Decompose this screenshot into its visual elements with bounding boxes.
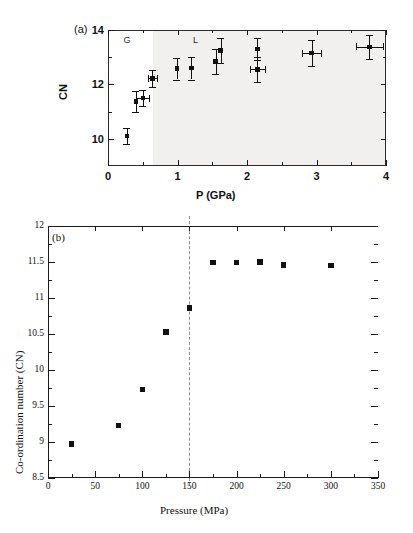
panel-b-x-ticklabel: 150: [174, 482, 204, 492]
panel-b-x-ticklabel: 350: [363, 482, 393, 492]
panel-a-x-minor-tick: [351, 162, 352, 166]
panel-a-yerror-cap: [132, 91, 139, 92]
panel-b-y-tick: [48, 334, 55, 335]
panel-b-x-tick: [284, 471, 285, 478]
panel-a-x-tick: [386, 160, 387, 166]
panel-a-yerror-cap: [173, 58, 180, 59]
figure-root: (a) CN P (GPa) 01234101214GL (b) Co-ordi…: [0, 0, 413, 533]
panel-b-y-tick-right: [371, 478, 378, 479]
panel-b-datapoint: [187, 305, 193, 311]
panel-a-y-ticklabel: 10: [78, 134, 104, 145]
panel-a-yerror-cap: [139, 90, 146, 91]
panel-a-x-tick-top: [317, 30, 318, 35]
panel-a-region-label-g: G: [123, 36, 130, 45]
panel-b-x-tick: [142, 471, 143, 478]
panel-a-x-ticklabel: 2: [233, 171, 261, 182]
panel-b-y-ticklabel: 11.5: [16, 257, 44, 267]
panel-a-right-spine: [385, 30, 386, 166]
panel-a-xerror-cap: [149, 95, 150, 102]
panel-b-x-ticklabel: 300: [316, 482, 346, 492]
panel-b-y-tick-right: [371, 334, 378, 335]
panel-a-xerror-cap: [148, 75, 149, 82]
panel-a-xerror-cap: [356, 43, 357, 50]
panel-a-x-minor-tick: [143, 162, 144, 166]
panel-a-yerror-cap: [149, 87, 156, 88]
panel-b-top-spine: [48, 226, 378, 227]
panel-a-y-tick: [108, 139, 114, 140]
panel-b-x-tick-top: [331, 226, 332, 231]
panel-a-x-tick: [108, 160, 109, 166]
panel-a-yerror-cap: [188, 80, 195, 81]
panel-b-y-tick-right: [371, 262, 378, 263]
panel-b-y-tick: [48, 406, 55, 407]
panel-a-y-tick: [108, 30, 114, 31]
panel-a-x-minor-tick: [282, 162, 283, 166]
panel-a-yerror-cap: [132, 112, 139, 113]
panel-a-x-axis-title: P (GPa): [196, 190, 236, 201]
panel-a-datapoint: [150, 76, 155, 81]
panel-a-y-tick: [108, 84, 114, 85]
panel-a-x-tick-top: [247, 30, 248, 35]
panel-b-x-ticklabel: 0: [33, 482, 63, 492]
panel-a-xerror-cap: [383, 43, 384, 50]
panel-a-x-ticklabel: 3: [303, 171, 331, 182]
panel-a-region-label-l: L: [193, 36, 198, 45]
panel-a-x-minor-tick: [212, 162, 213, 166]
panel-a: (a) CN P (GPa) 01234101214GL: [0, 0, 413, 212]
panel-a-y-ticklabel: 14: [78, 25, 104, 36]
panel-b-datapoint: [328, 263, 334, 269]
panel-a-x-tick: [178, 160, 179, 166]
panel-b-y-tick: [48, 370, 55, 371]
panel-a-datapoint: [141, 96, 146, 101]
panel-b-x-axis-title: Pressure (MPa): [160, 505, 228, 516]
panel-b-datapoint: [163, 329, 169, 335]
panel-b-y-tick-right: [371, 406, 378, 407]
panel-b-y-minor-tick: [48, 352, 52, 353]
panel-b-x-minor-tick: [354, 474, 355, 478]
panel-b-datapoint: [234, 260, 240, 266]
panel-a-y-minor-tick-right: [383, 112, 386, 113]
panel-a-yerror-cap: [308, 66, 315, 67]
panel-a-y-minor-tick: [108, 57, 112, 58]
panel-a-x-ticklabel: 0: [94, 171, 122, 182]
panel-a-xerror-cap: [265, 66, 266, 73]
panel-b-x-tick: [331, 471, 332, 478]
panel-b-x-tick-top: [142, 226, 143, 231]
panel-a-yerror-cap: [366, 35, 373, 36]
panel-b-datapoint: [210, 260, 216, 266]
panel-a-x-ticklabel: 1: [164, 171, 192, 182]
panel-a-datapoint: [309, 51, 314, 56]
panel-b-x-minor-tick: [72, 474, 73, 478]
panel-a-yerror-cap: [139, 106, 146, 107]
panel-b-y-tick-right: [371, 370, 378, 371]
panel-a-yerror-cap: [217, 63, 224, 64]
panel-b-y-minor-tick: [48, 424, 52, 425]
panel-b-x-ticklabel: 250: [269, 482, 299, 492]
panel-b-transition-line: [189, 216, 190, 486]
panel-a-x-tick: [247, 160, 248, 166]
panel-a-yerror-cap: [254, 38, 261, 39]
panel-b-y-tick: [48, 262, 55, 263]
panel-a-y-tick-right: [381, 84, 386, 85]
panel-b-y-tick: [48, 478, 55, 479]
panel-a-yerror-cap: [217, 38, 224, 39]
panel-b-y-tick-right: [371, 226, 378, 227]
panel-a-xerror-cap: [321, 50, 322, 57]
panel-b-x-ticklabel: 100: [127, 482, 157, 492]
panel-b-y-tick: [48, 226, 55, 227]
panel-a-yerror-cap: [173, 80, 180, 81]
panel-a-left-spine: [108, 30, 109, 166]
panel-a-y-minor-tick: [108, 112, 112, 113]
panel-a-x-minor-tick-top: [143, 30, 144, 33]
panel-a-x-tick: [317, 160, 318, 166]
panel-b-datapoint: [116, 423, 122, 429]
panel-b-x-tick: [48, 471, 49, 478]
panel-b-y-minor-tick-right: [374, 388, 378, 389]
panel-b-x-tick-top: [237, 226, 238, 231]
panel-a-x-ticklabel: 4: [372, 171, 400, 182]
panel-b-x-minor-tick: [260, 474, 261, 478]
panel-b-datapoint: [140, 387, 146, 393]
panel-a-y-ticklabel: 12: [78, 79, 104, 90]
panel-b-y-ticklabel: 8.5: [16, 473, 44, 483]
panel-a-datapoint: [255, 67, 260, 72]
